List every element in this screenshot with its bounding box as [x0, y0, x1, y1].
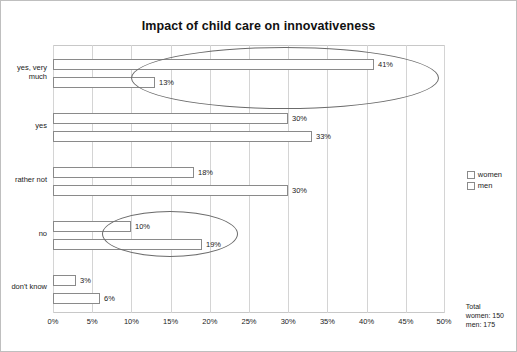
legend-item-men: men [467, 180, 502, 191]
y-axis-category-label: yes, very much [1, 63, 53, 81]
bar-women-rather-not [53, 167, 194, 178]
x-axis-tick-label: 5% [87, 317, 98, 326]
x-axis-tick-label: 25% [241, 317, 256, 326]
legend-item-women: women [467, 169, 502, 180]
bar-value-women-yes: 30% [292, 113, 307, 124]
legend-swatch-men [467, 182, 475, 190]
x-axis-tick-label: 50% [436, 317, 451, 326]
y-axis-category-label: yes [1, 121, 53, 130]
totals-men: men: 175 [466, 320, 504, 329]
x-axis-tick-label: 15% [163, 317, 178, 326]
x-axis-tick-label: 0% [48, 317, 59, 326]
annotation-ellipse-no [102, 211, 238, 257]
bar-value-men-dont-know: 6% [104, 293, 115, 304]
plot-area: 0% 5% 10% 15% 20% 25% 30% 35% 40% 45% 50… [53, 45, 445, 313]
x-axis-tick-label: 45% [398, 317, 413, 326]
bar-women-yes [53, 113, 288, 124]
legend: women men [467, 169, 502, 191]
chart-figure: Impact of child care on innovativeness 0… [0, 0, 517, 352]
legend-swatch-women [467, 171, 475, 179]
annotation-ellipse-top [131, 47, 439, 109]
bar-value-women-dont-know: 3% [80, 275, 91, 286]
y-axis-category-label: rather not [1, 175, 53, 184]
totals-women: women: 150 [466, 311, 504, 320]
chart-title: Impact of child care on innovativeness [1, 19, 516, 33]
x-axis-tick-label: 20% [202, 317, 217, 326]
y-axis-category-label: no [1, 229, 53, 238]
totals-heading: Total [466, 302, 504, 311]
bar-men-rather-not [53, 185, 288, 196]
x-axis-tick-label: 40% [359, 317, 374, 326]
bar-men-yes [53, 131, 312, 142]
x-axis-tick-label: 30% [281, 317, 296, 326]
legend-label-women: women [478, 169, 502, 180]
legend-label-men: men [478, 180, 493, 191]
bar-value-men-yes: 33% [316, 131, 331, 142]
y-axis-category-label: don't know [1, 282, 53, 291]
gridline [444, 45, 445, 313]
bar-men-dont-know [53, 293, 100, 304]
x-axis-tick-label: 10% [124, 317, 139, 326]
bar-value-men-rather-not: 30% [292, 185, 307, 196]
bar-value-women-rather-not: 18% [198, 167, 213, 178]
x-axis-tick-label: 35% [320, 317, 335, 326]
totals-box: Total women: 150 men: 175 [466, 302, 504, 329]
bar-women-dont-know [53, 275, 76, 286]
